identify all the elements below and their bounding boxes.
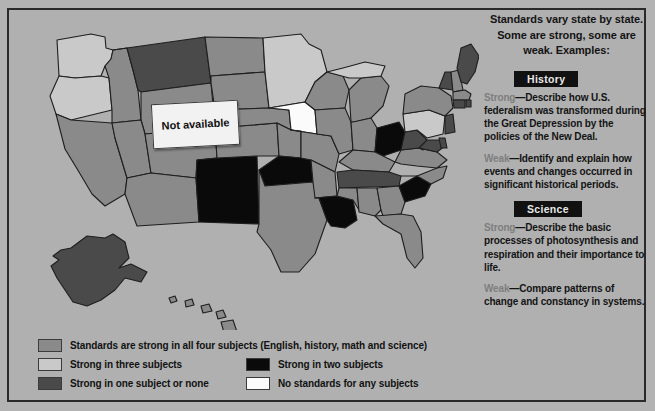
state-massachusetts [453, 90, 471, 100]
state-connecticut [453, 100, 465, 108]
state-arizona [125, 173, 199, 226]
legend-swatch-one [38, 377, 62, 390]
state-tennessee [337, 170, 401, 188]
legend-swatch-two [246, 358, 270, 371]
science-weak-text: —Compare patterns of change and constanc… [484, 283, 644, 307]
state-hawaii [169, 296, 237, 330]
state-new-jersey [445, 114, 455, 134]
state-oregon [50, 76, 112, 120]
map-svg [9, 10, 479, 330]
legend-item-none: No standards for any subjects [246, 377, 478, 390]
history-weak-label: Weak [484, 153, 509, 164]
science-badge: Science [514, 201, 582, 217]
legend-label-three: Strong in three subjects [70, 359, 182, 370]
map-legend: Standards are strong in all four subject… [38, 336, 478, 394]
state-alaska [51, 234, 147, 306]
us-choropleth-map: Not available [9, 10, 479, 330]
science-weak-label: Weak [484, 283, 509, 294]
legend-row: Strong in one subject or none No standar… [38, 374, 478, 393]
state-oklahoma [259, 156, 313, 186]
legend-swatch-three [38, 358, 62, 371]
legend-label-one: Strong in one subject or none [70, 378, 209, 389]
legend-swatch-none [246, 377, 270, 390]
legend-item-two: Strong in two subjects [246, 358, 478, 371]
legend-row: Standards are strong in all four subject… [38, 336, 478, 355]
state-florida [375, 214, 423, 268]
state-rhode-island [466, 100, 471, 107]
explanation-panel: Standards vary state by state. Some are … [484, 12, 649, 337]
science-strong-paragraph: Strong—Describe the basic processes of p… [484, 221, 649, 274]
not-available-label: Not available [161, 116, 229, 132]
state-new-mexico [196, 156, 259, 224]
legend-item-one: Strong in one subject or none [38, 377, 209, 390]
legend-swatch-all-four [38, 339, 62, 352]
legend-item-three: Strong in three subjects [38, 358, 182, 371]
history-weak-paragraph: Weak—Identify and explain how events and… [484, 152, 649, 192]
legend-item-all-four: Standards are strong in all four subject… [38, 339, 427, 352]
state-michigan [349, 76, 389, 122]
panel-heading: Standards vary state by state. Some are … [484, 12, 649, 59]
history-strong-paragraph: Strong—Describe how U.S. federalism was … [484, 91, 649, 144]
legend-label-none: No standards for any subjects [278, 378, 418, 389]
history-strong-label: Strong [484, 92, 515, 103]
legend-label-all-four: Standards are strong in all four subject… [70, 340, 427, 351]
legend-label-two: Strong in two subjects [278, 359, 383, 370]
legend-row: Strong in three subjects Strong in two s… [38, 355, 478, 374]
history-badge: History [514, 71, 578, 87]
state-washington [57, 34, 113, 78]
state-delaware [439, 138, 447, 148]
state-maine [457, 44, 479, 84]
state-indiana [351, 118, 377, 152]
science-strong-label: Strong [484, 222, 515, 233]
figure-root: Not available Standards vary state by st… [0, 0, 655, 411]
not-available-callout: Not available [151, 100, 240, 149]
science-weak-paragraph: Weak—Compare patterns of change and cons… [484, 282, 649, 308]
